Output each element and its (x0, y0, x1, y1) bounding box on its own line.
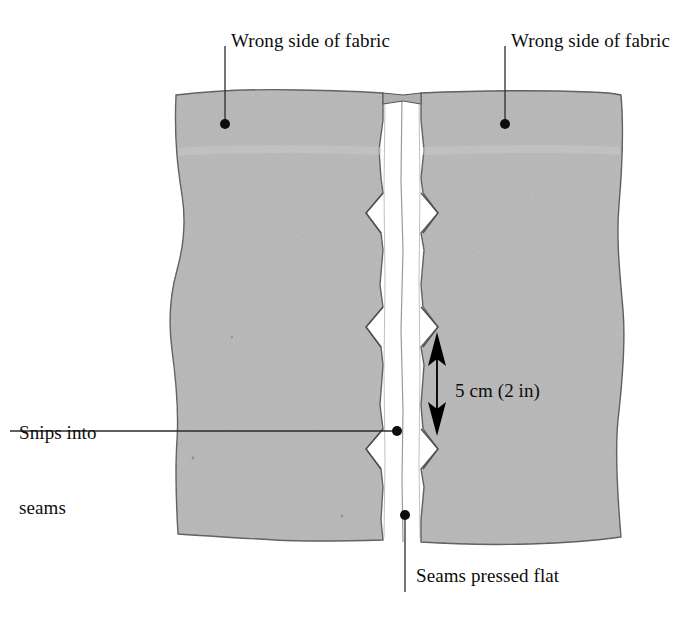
leader-dot-snips (392, 426, 402, 436)
fabric-panel-right (421, 91, 624, 544)
speck-1 (192, 457, 195, 460)
label-snips-line-2: seams (19, 495, 97, 520)
speck-3 (231, 336, 233, 338)
speck-2 (341, 515, 344, 518)
label-snips-line-1: Snips into (19, 420, 97, 445)
label-wrong-side-of-fabric-right: Wrong side of fabric (511, 28, 670, 53)
label-measurement-5cm-2in: 5 cm (2 in) (455, 378, 540, 403)
fabric-left-shape (170, 90, 383, 541)
seam-channel (383, 93, 421, 542)
label-wrong-side-of-fabric-left: Wrong side of fabric (231, 28, 390, 53)
leader-dot-wrong-side-left (220, 119, 230, 129)
seam-fold-shadow-left (384, 100, 385, 538)
fabric-panel-left (170, 90, 383, 541)
diagram-canvas (0, 0, 700, 627)
seam-fold-shadow-right (419, 100, 420, 538)
sewing-diagram: Wrong side of fabric Wrong side of fabri… (0, 0, 700, 627)
label-snips-into-seams: Snips into seams (19, 370, 97, 570)
seam-stitch-line (401, 95, 403, 542)
label-seams-pressed-flat: Seams pressed flat (416, 563, 559, 588)
fabric-right-shape (421, 91, 624, 544)
leader-dot-wrong-side-right (500, 119, 510, 129)
leader-dot-pressed-flat (400, 510, 410, 520)
